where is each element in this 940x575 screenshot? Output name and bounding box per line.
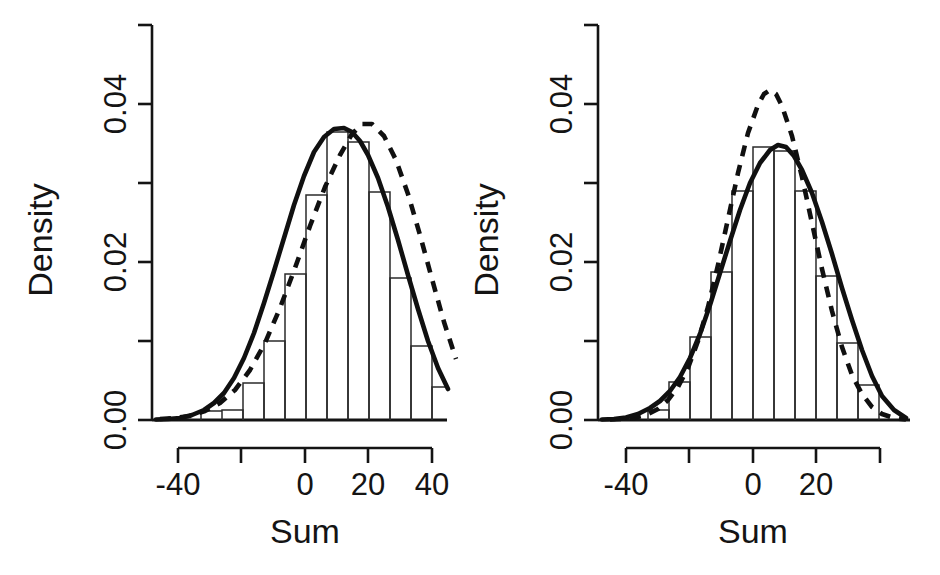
hist-bar bbox=[837, 343, 858, 420]
y-tick-labels-left: 0.04 0.02 0.00 bbox=[98, 74, 133, 450]
hist-bar bbox=[243, 383, 264, 420]
y-tick-label-0.00: 0.00 bbox=[98, 390, 133, 450]
x-tick-label--40: -40 bbox=[604, 467, 649, 502]
x-axis-left bbox=[178, 448, 432, 463]
hist-bar bbox=[264, 341, 285, 420]
y-axis-title-left: Density bbox=[21, 183, 59, 296]
x-tick-label-0: 0 bbox=[296, 467, 313, 502]
normal-approximation-curve-right bbox=[610, 90, 906, 420]
x-axis-right bbox=[626, 448, 880, 463]
hist-bar bbox=[285, 274, 306, 420]
y-tick-label-0.04: 0.04 bbox=[544, 74, 579, 134]
hist-bar bbox=[222, 410, 243, 420]
x-tick-labels-left: -40 0 20 40 bbox=[156, 467, 450, 502]
hist-bar bbox=[348, 142, 369, 420]
y-tick-label-0.00: 0.00 bbox=[544, 390, 579, 450]
x-axis-title-left: Sum bbox=[270, 512, 340, 550]
x-tick-label--40: -40 bbox=[156, 467, 201, 502]
hist-bar bbox=[327, 132, 348, 420]
chart-panel-left: 0.04 0.02 0.00 Density bbox=[0, 0, 470, 575]
x-tick-label-20: 20 bbox=[799, 467, 833, 502]
y-tick-label-0.04: 0.04 bbox=[98, 74, 133, 134]
density-histogram-figure: 0.04 0.02 0.00 Density bbox=[0, 0, 940, 575]
hist-bar bbox=[795, 191, 816, 420]
y-tick-labels-right: 0.04 0.02 0.00 bbox=[544, 74, 579, 450]
y-tick-label-0.02: 0.02 bbox=[544, 232, 579, 292]
x-axis-title-right: Sum bbox=[718, 512, 788, 550]
hist-bar bbox=[411, 346, 432, 420]
y-axis-left bbox=[138, 25, 152, 420]
x-tick-label-0: 0 bbox=[744, 467, 761, 502]
x-tick-label-40: 40 bbox=[415, 467, 449, 502]
hist-bar bbox=[753, 147, 774, 420]
x-tick-labels-right: -40 0 20 bbox=[604, 467, 834, 502]
hist-bar bbox=[432, 387, 447, 420]
x-tick-label-20: 20 bbox=[351, 467, 385, 502]
hist-bar bbox=[369, 192, 390, 420]
y-axis-right bbox=[584, 25, 598, 420]
kernel-density-curve-right bbox=[602, 145, 906, 420]
hist-bar bbox=[774, 151, 795, 420]
y-tick-label-0.02: 0.02 bbox=[98, 232, 133, 292]
chart-panel-right: 0.04 0.02 0.00 Density bbox=[470, 0, 940, 575]
y-axis-title-right: Density bbox=[470, 183, 505, 296]
hist-bar bbox=[390, 278, 411, 420]
